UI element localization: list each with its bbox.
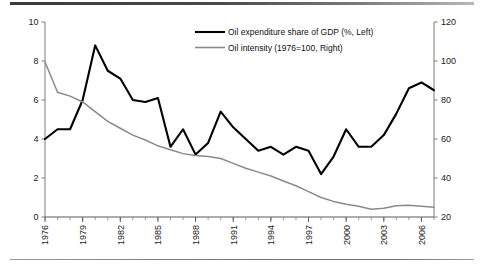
right-axis-tick-label: 40 [441, 173, 451, 183]
x-axis-tick-label: 1976 [40, 225, 50, 245]
x-axis-tick-label: 1991 [229, 225, 239, 245]
x-axis-tick-label: 2006 [417, 225, 427, 245]
x-axis-tick-label: 2000 [342, 225, 352, 245]
right-axis-tick-label: 120 [441, 17, 456, 27]
scanned-page: 0246810204060801001201976197919821985198… [0, 0, 484, 274]
x-axis-tick-label: 1979 [78, 225, 88, 245]
line-chart: 0246810204060801001201976197919821985198… [0, 0, 484, 274]
x-axis-tick-label: 2003 [379, 225, 389, 245]
left-axis-tick-label: 6 [33, 95, 38, 105]
left-axis-tick-label: 4 [33, 134, 38, 144]
x-axis-tick-label: 1994 [266, 225, 276, 245]
left-axis-tick-label: 8 [33, 56, 38, 66]
right-axis-tick-label: 60 [441, 134, 451, 144]
left-axis-tick-label: 0 [33, 212, 38, 222]
right-axis-tick-label: 20 [441, 212, 451, 222]
x-axis-tick-label: 1982 [116, 225, 126, 245]
legend-label-1: Oil expenditure share of GDP (%, Left) [228, 27, 374, 37]
chart-figure: 0246810204060801001201976197919821985198… [0, 0, 484, 274]
legend-label-2: Oil intensity (1976=100, Right) [228, 43, 343, 53]
left-axis-tick-label: 10 [28, 17, 38, 27]
x-axis-tick-label: 1988 [191, 225, 201, 245]
right-axis-tick-label: 100 [441, 56, 456, 66]
series-line-2 [45, 62, 434, 209]
x-axis-tick-label: 1997 [304, 225, 314, 245]
left-axis-tick-label: 2 [33, 173, 38, 183]
x-axis-tick-label: 1985 [153, 225, 163, 245]
right-axis-tick-label: 80 [441, 95, 451, 105]
series-line-1 [45, 45, 434, 174]
